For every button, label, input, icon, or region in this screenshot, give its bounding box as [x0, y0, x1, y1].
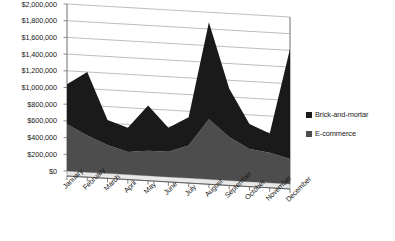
- legend-item-e-commerce[interactable]: E-commerce: [306, 126, 392, 141]
- legend-swatch-icon: [306, 112, 312, 118]
- chart-legend: Brick-and-mortar E-commerce: [306, 107, 392, 145]
- legend-swatch-icon: [306, 131, 312, 137]
- x-tick-label: June: [162, 179, 179, 196]
- legend-item-brick-and-mortar[interactable]: Brick-and-mortar: [306, 107, 392, 122]
- x-tick-label: January: [61, 167, 85, 191]
- x-tick-label: March: [101, 173, 121, 193]
- legend-item-label: Brick-and-mortar: [315, 110, 368, 119]
- x-tick-label: April: [122, 178, 138, 194]
- legend-item-label: E-commerce: [315, 129, 356, 138]
- x-tick-label: May: [142, 180, 158, 196]
- x-tick-label: July: [182, 183, 197, 198]
- x-tick-label: August: [203, 177, 225, 199]
- area-chart: $2,000,000 $1,800,000 $1,600,000 $1,400,…: [0, 0, 395, 241]
